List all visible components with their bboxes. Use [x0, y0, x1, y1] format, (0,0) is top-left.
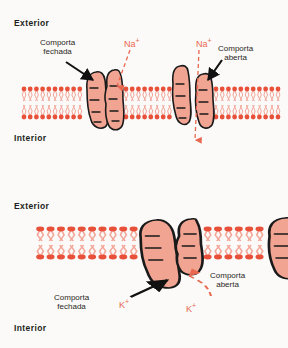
phospholipid [78, 245, 86, 259]
phospholipid [276, 87, 281, 101]
phospholipid [88, 227, 96, 241]
open-channel-protein-potassium [269, 218, 288, 279]
phospholipid [77, 105, 82, 119]
phospholipid [220, 105, 225, 119]
phospholipid [59, 87, 64, 101]
phospholipid [263, 105, 268, 119]
phospholipid [119, 245, 127, 259]
phospholipid [155, 105, 160, 119]
phospholipid [224, 245, 232, 259]
phospholipid [136, 87, 141, 101]
phospholipid [40, 87, 45, 101]
phospholipid [148, 87, 153, 101]
phospholipid [142, 87, 147, 101]
phospholipid [167, 105, 172, 119]
phospholipid [161, 87, 166, 101]
closed-gate-pointer-sodium [66, 62, 93, 80]
phospholipid [161, 105, 166, 119]
phospholipid [224, 227, 232, 241]
phospholipid [65, 87, 70, 101]
panel-sodium-channels: Exterior Interior Comporta fechada Compo… [0, 0, 288, 176]
phospholipid [130, 105, 135, 119]
phospholipid [226, 105, 231, 119]
phospholipid [57, 245, 65, 259]
phospholipid [214, 87, 219, 101]
phospholipid [204, 245, 212, 259]
phospholipid [245, 245, 253, 259]
phospholipid [119, 227, 127, 241]
phospholipid [167, 87, 172, 101]
phospholipid [36, 245, 44, 259]
closed-gate-pointer-potassium [131, 280, 168, 297]
phospholipid [98, 245, 106, 259]
phospholipid [22, 105, 27, 119]
phospholipid [130, 87, 135, 101]
phospholipid [46, 87, 51, 101]
phospholipid [47, 245, 55, 259]
phospholipid [53, 87, 58, 101]
phospholipid [269, 87, 274, 101]
phospholipid [78, 227, 86, 241]
phospholipid [59, 105, 64, 119]
phospholipid [220, 87, 225, 101]
phospholipid [71, 87, 76, 101]
phospholipid [130, 227, 138, 241]
phospholipid [28, 87, 33, 101]
phospholipid [71, 105, 76, 119]
phospholipid [245, 227, 253, 241]
phospholipid [256, 245, 264, 259]
phospholipid [40, 105, 45, 119]
phospholipid [34, 87, 39, 101]
phospholipid [232, 105, 237, 119]
phospholipid [148, 105, 153, 119]
phospholipid [36, 227, 44, 241]
potassium-membrane-artwork [0, 176, 288, 348]
phospholipid [98, 227, 106, 241]
phospholipid [238, 87, 243, 101]
phospholipid [46, 105, 51, 119]
phospholipid [28, 105, 33, 119]
phospholipid [235, 245, 243, 259]
open-channel-protein-sodium [173, 66, 214, 128]
phospholipid [251, 105, 256, 119]
phospholipid [124, 87, 129, 101]
phospholipid [136, 105, 141, 119]
phospholipid [257, 105, 262, 119]
phospholipid [251, 87, 256, 101]
phospholipid [245, 105, 250, 119]
phospholipid [109, 227, 117, 241]
phospholipid [214, 245, 222, 259]
phospholipid [130, 245, 138, 259]
phospholipid [65, 105, 70, 119]
phospholipid [245, 87, 250, 101]
phospholipid [67, 245, 75, 259]
phospholipid [57, 227, 65, 241]
phospholipid [232, 87, 237, 101]
phospholipid [214, 227, 222, 241]
phospholipid [235, 227, 243, 241]
phospholipid [109, 245, 117, 259]
phospholipid [77, 87, 82, 101]
phospholipid [22, 87, 27, 101]
phospholipid [256, 227, 264, 241]
phospholipid [155, 87, 160, 101]
phospholipid [34, 105, 39, 119]
phospholipid [47, 227, 55, 241]
membrane-channel-figure: Exterior Interior Comporta fechada Compo… [0, 0, 288, 348]
k-flow-arrow-blocked [189, 276, 211, 296]
phospholipid [238, 105, 243, 119]
phospholipid [269, 105, 274, 119]
phospholipid [276, 105, 281, 119]
phospholipid [204, 227, 212, 241]
panel-potassium-channels: Exterior Interior Comporta fechada Compo… [0, 176, 288, 348]
sodium-membrane-artwork [0, 0, 288, 176]
phospholipid [263, 87, 268, 101]
phospholipid [53, 105, 58, 119]
phospholipid [226, 87, 231, 101]
phospholipid [142, 105, 147, 119]
phospholipid [88, 245, 96, 259]
phospholipid [67, 227, 75, 241]
phospholipid [257, 87, 262, 101]
open-gate-pointer-sodium [208, 60, 222, 80]
